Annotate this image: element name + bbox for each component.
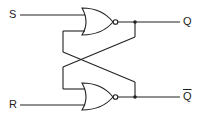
qbar-feedback-cross-wire xyxy=(63,52,135,82)
bottom-nor-gate xyxy=(82,83,113,110)
sr-latch-diagram xyxy=(0,0,203,120)
r-label: R xyxy=(9,99,17,110)
q-feedback-cross-wire xyxy=(63,37,135,67)
q-bar-label: Q xyxy=(183,91,192,102)
top-nor-gate xyxy=(82,8,113,35)
q-label: Q xyxy=(183,16,192,27)
q-junction-dot xyxy=(133,20,137,24)
bottom-nor-bubble xyxy=(113,95,118,100)
top-nor-bubble xyxy=(113,20,118,25)
qbar-junction-dot xyxy=(133,95,137,99)
s-label: S xyxy=(9,9,16,20)
